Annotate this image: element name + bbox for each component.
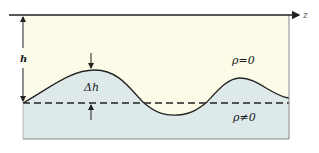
upper-region-label: ρ=0 bbox=[231, 54, 255, 67]
delta-h-label: Δh bbox=[83, 81, 99, 94]
z-axis-label: z bbox=[302, 10, 308, 20]
interface-wave-diagram: h Δh ρ=0 ρ≠0 z bbox=[0, 0, 319, 153]
lower-region-label: ρ≠0 bbox=[232, 111, 256, 124]
h-label: h bbox=[20, 53, 27, 64]
